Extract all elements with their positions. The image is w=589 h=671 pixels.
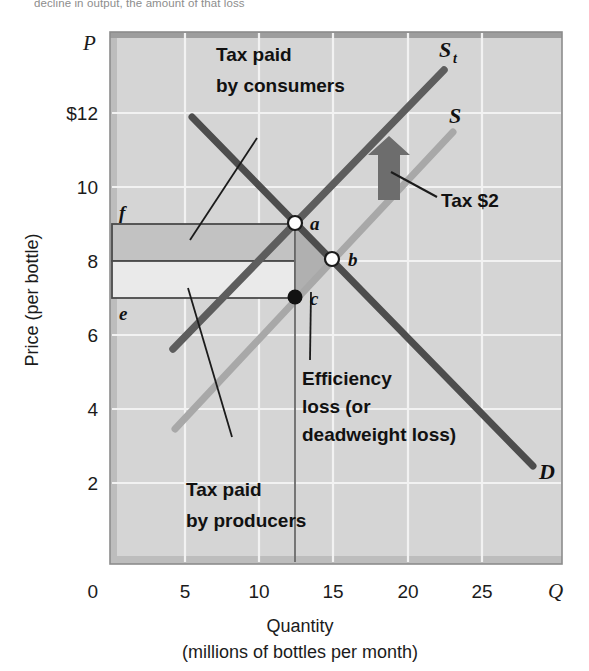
region-tax-paid-by-producers <box>112 261 295 298</box>
y-tick-2: 2 <box>87 473 98 494</box>
y-tick-12: $12 <box>66 103 98 124</box>
y-axis-title: Price (per bottle) <box>22 233 42 366</box>
x-axis-title-line2: (millions of bottles per month) <box>182 642 418 662</box>
y-tick-4: 4 <box>87 399 98 420</box>
x-tick-20: 20 <box>397 581 418 602</box>
annotation-tax-consumers-line2: by consumers <box>216 75 345 96</box>
x-tick-25: 25 <box>471 581 492 602</box>
curve-label-demand: D <box>538 459 555 484</box>
y-tick-0: 0 <box>87 581 98 602</box>
annotation-efficiency-loss-line2: loss (or <box>302 396 371 417</box>
point-label-a: a <box>310 213 320 234</box>
annotation-efficiency-loss-line1: Efficiency <box>302 368 392 389</box>
tax-incidence-figure: a b c f e S t S D Tax paid by consumers … <box>0 0 589 671</box>
plot-bottom-shadow <box>110 556 562 564</box>
x-axis-variable: Q <box>548 579 563 603</box>
y-tick-8: 8 <box>87 251 98 272</box>
annotation-tax-consumers-line1: Tax paid <box>216 44 292 65</box>
plot-top-shadow <box>110 32 562 38</box>
y-tick-10: 10 <box>77 177 98 198</box>
annotation-tax-amount: Tax $2 <box>441 190 499 211</box>
x-tick-10: 10 <box>248 581 269 602</box>
point-c-marker <box>288 290 303 305</box>
point-b-marker <box>325 252 339 266</box>
point-label-c: c <box>310 288 319 309</box>
y-tick-6: 6 <box>87 325 98 346</box>
x-tick-5: 5 <box>180 581 191 602</box>
curve-label-supply-tax: S <box>439 37 451 62</box>
annotation-efficiency-loss-line3: deadweight loss) <box>302 424 456 445</box>
annotation-tax-producers-line1: Tax paid <box>186 479 262 500</box>
annotation-tax-producers-line2: by producers <box>186 510 306 531</box>
point-a-marker <box>288 216 302 230</box>
x-axis-title-line1: Quantity <box>266 616 333 636</box>
price-marker-label-e: e <box>119 303 128 324</box>
curve-label-supply: S <box>449 103 461 128</box>
x-tick-15: 15 <box>322 581 343 602</box>
y-axis-variable: P <box>82 31 96 55</box>
point-label-b: b <box>348 249 358 270</box>
